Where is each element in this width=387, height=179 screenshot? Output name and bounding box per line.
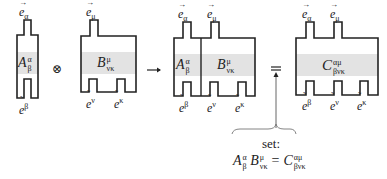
contraction-formula: Aαβ Bμνκ=Cαμβνκ [233,153,305,171]
tensor-A-bottom-leg-label: eβ [19,104,28,116]
tensor-C-top-leg-label-1: eα [302,8,312,20]
tensor-C-bottom-leg-label-1: eβ [302,100,311,112]
tensor-AB-bottom-leg-label-1: eβ [179,102,188,114]
set-label: set: [262,137,280,150]
tensor-AB-bottom-leg-label-2: eν [207,102,216,114]
tensor-C-bottom-leg-label-3: eκ [357,100,366,112]
diagram-shapes [0,0,387,179]
equals-sign [271,67,281,70]
tensor-AB-B-symbol: Bμνκ [217,57,234,75]
pointer-arrow [274,72,279,128]
tensor-AB-bottom-leg-label-3: eκ [235,102,244,114]
tensor-AB-top-leg-label-1: eα [178,8,188,20]
tensor-A-symbol: Aαβ [18,55,32,73]
tensor-C-top-leg-label-2: eμ [330,8,340,20]
tensor-B-symbol: Bμνκ [97,55,114,73]
curly-brace [232,124,296,134]
tensor-AB-top-leg-label-2: eμ [207,8,217,20]
tensor-product-icon: ⊗ [52,63,62,75]
tensor-AB-A-symbol: Aαβ [176,57,190,75]
tensor-C-bottom-leg-label-2: eν [330,100,339,112]
tensor-B-bottom-leg-label-2: eκ [114,98,123,110]
tensor-B-bottom-leg-label-1: eν [86,98,95,110]
tensor-B-top-leg-label: eμ [86,6,96,18]
tensor-A-top-leg-label: eα [19,6,29,18]
arrow-icon [147,68,161,73]
tensor-C-symbol: Cαμβνκ [322,58,345,76]
